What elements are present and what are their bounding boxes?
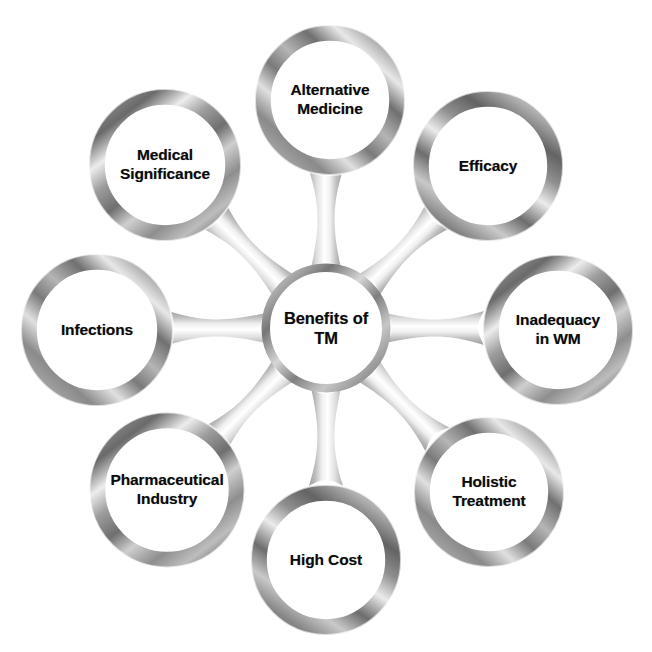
node-ring-medical-significance xyxy=(89,89,241,241)
benefits-of-tm-wheel-diagram: Medical Significance Alternative Medicin… xyxy=(0,0,652,652)
hub-ring xyxy=(267,269,386,388)
wheel-graphic xyxy=(0,0,652,652)
node-ring-efficacy xyxy=(413,91,563,241)
spoke-infections xyxy=(168,311,266,345)
node-ring-high-cost xyxy=(251,485,401,635)
node-ring-infections xyxy=(21,254,173,406)
spoke-high-cost xyxy=(309,388,343,486)
node-ring-holistic-treatment xyxy=(414,417,564,567)
spoke-inadequacy-in-wm xyxy=(386,311,484,345)
spoke-alternative-medicine xyxy=(309,170,343,268)
node-ring-alternative-medicine xyxy=(255,25,405,175)
node-ring-pharmaceutical-industry xyxy=(90,413,245,568)
node-ring-inadequacy-in-wm xyxy=(483,255,633,405)
